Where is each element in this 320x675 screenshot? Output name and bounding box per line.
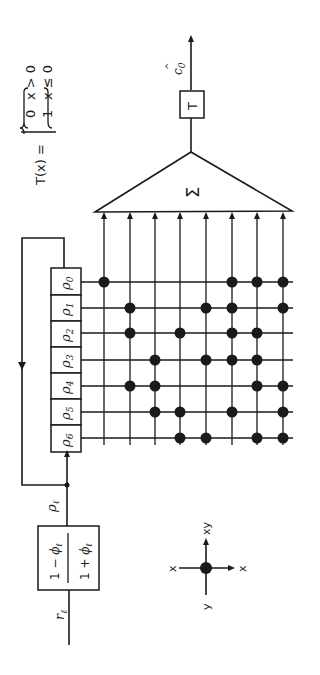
transform-numerator: 1 − ϕℓ bbox=[48, 543, 64, 580]
correlator-diagram: T(x) = 0 x > 0 1 x ≤ 0 c0 ^ T Σ bbox=[0, 0, 320, 675]
case-a-value: 0 bbox=[23, 110, 38, 118]
case-b-condition: x ≤ 0 bbox=[40, 65, 55, 100]
threshold-definition: T(x) = 0 x > 0 1 x ≤ 0 bbox=[20, 65, 56, 186]
legend-top-label: xy bbox=[200, 521, 213, 535]
threshold-lhs: T(x) = bbox=[33, 144, 48, 186]
sigma-symbol: Σ bbox=[182, 187, 203, 198]
source-input: rℓ bbox=[52, 590, 69, 645]
case-b-value: 1 bbox=[40, 110, 55, 118]
feedback-arrow-icon bbox=[18, 362, 26, 370]
threshold-block: T bbox=[180, 91, 204, 152]
transform-denominator: 1 + ϕℓ bbox=[78, 543, 94, 580]
case-a-condition: x > 0 bbox=[23, 65, 38, 100]
output: c0 ^ bbox=[164, 38, 191, 90]
source-label: rℓ bbox=[52, 610, 69, 620]
legend-right-label: x bbox=[236, 565, 249, 572]
svg-text:T: T bbox=[185, 102, 200, 111]
transform-block: 1 − ϕℓ 1 + ϕℓ bbox=[38, 526, 99, 590]
summer-triangle: Σ bbox=[95, 152, 292, 212]
legend-left-label: x bbox=[166, 565, 179, 572]
input-label: ρℓ bbox=[44, 500, 61, 513]
output-hat: ^ bbox=[164, 62, 174, 70]
shift-register: ρ0 ρ1 ρ2 ρ3 ρ4 ρ5 ρ6 bbox=[51, 268, 81, 452]
legend-bottom-label: y bbox=[200, 603, 213, 610]
input-path: ρℓ bbox=[44, 453, 67, 526]
legend-node: x x xy y bbox=[166, 521, 249, 610]
